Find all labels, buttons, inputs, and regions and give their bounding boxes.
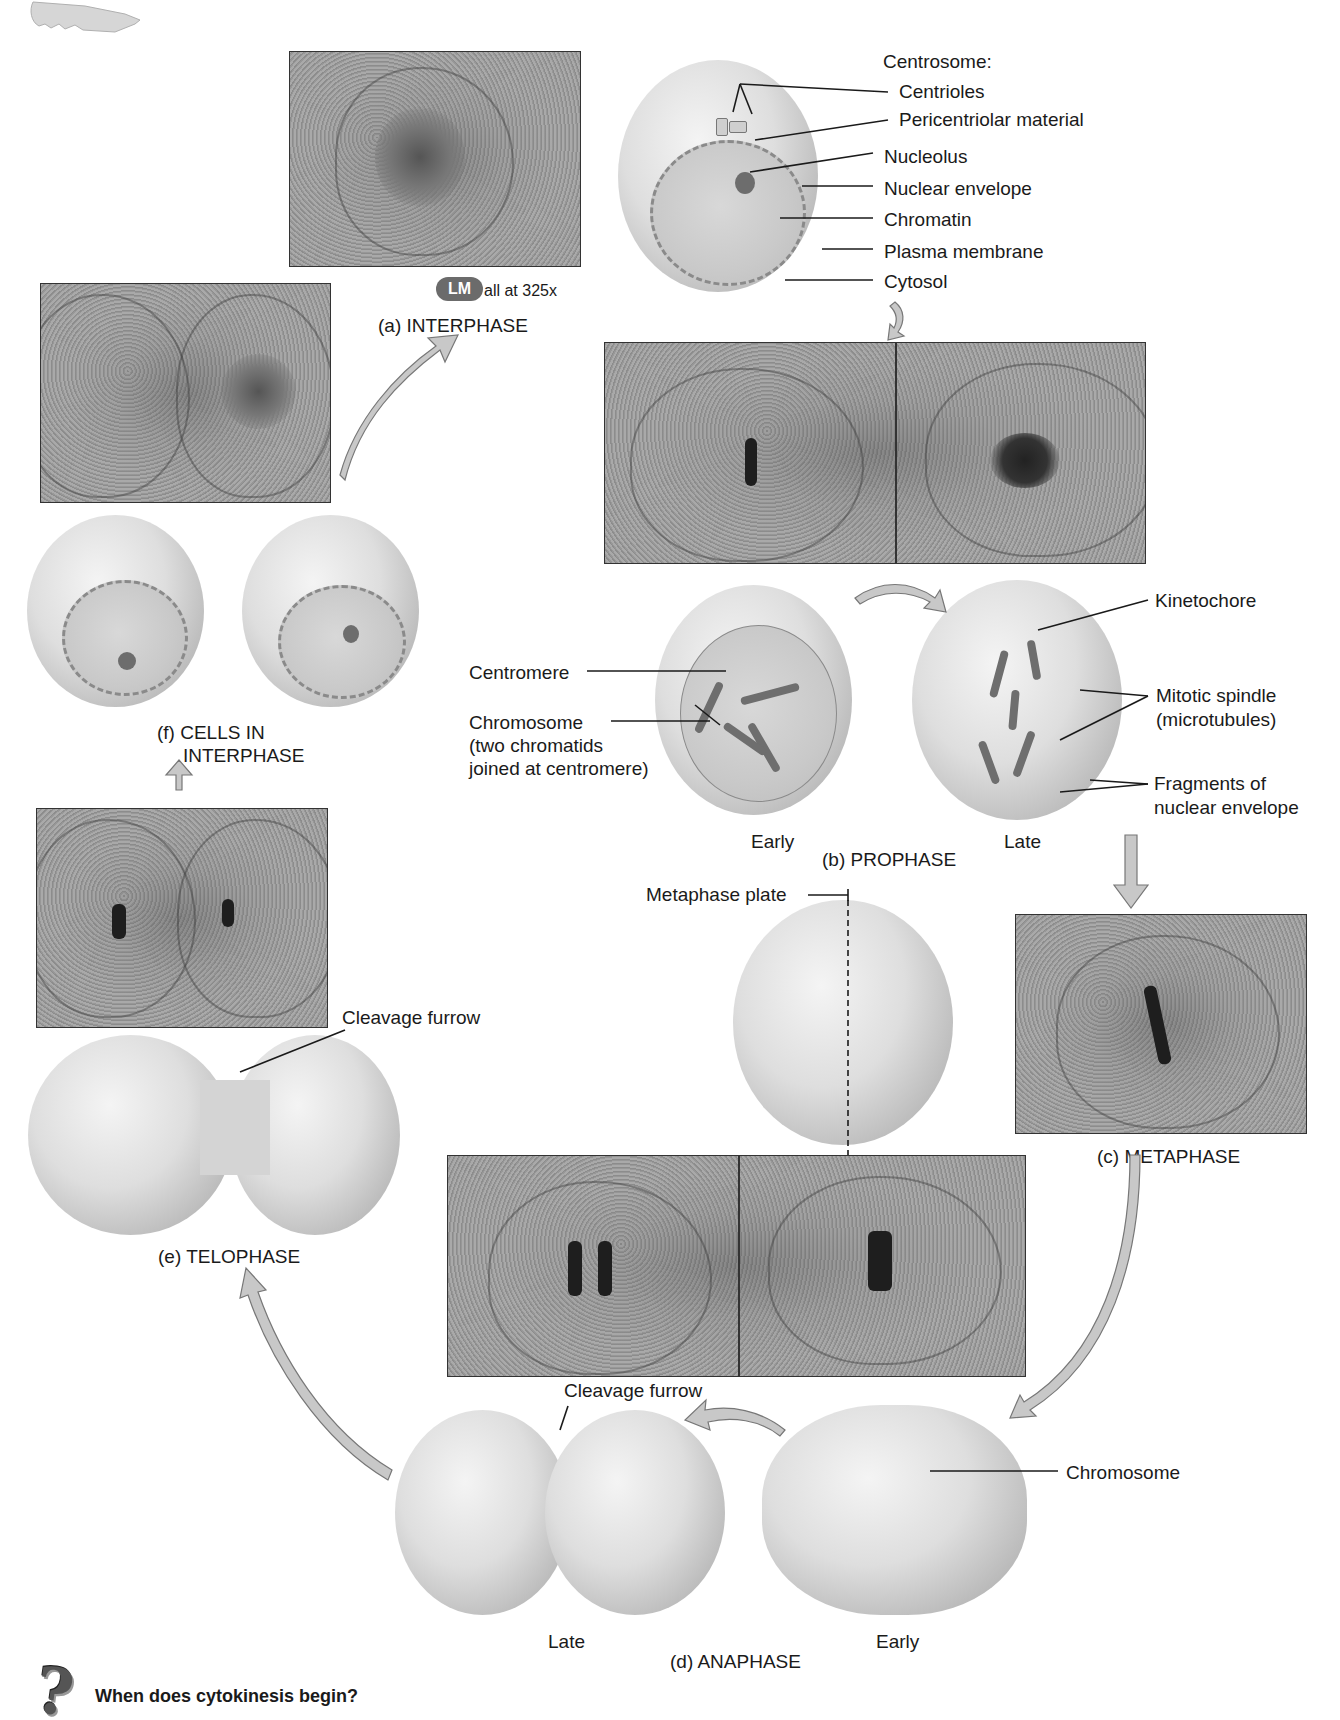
early-prophase-label: Early: [751, 831, 794, 853]
question-mark-icon: ?: [32, 1658, 78, 1720]
centriole: [729, 121, 747, 133]
label-microtubules: (microtubules): [1156, 709, 1276, 731]
cells-in-interphase-micrograph: [40, 283, 331, 503]
metaphase-phase-label: (c) METAPHASE: [1097, 1145, 1240, 1168]
magnification-text: all at 325x: [484, 280, 557, 302]
label-nuclear-envelope: Nuclear envelope: [884, 178, 1032, 200]
label-chromosome: Chromosome: [469, 712, 583, 734]
label-nucleolus: Nucleolus: [884, 146, 967, 168]
magnification-badge: LM: [436, 277, 483, 301]
daughter-nucleus-left: [62, 580, 188, 696]
telophase-bridge: [200, 1080, 270, 1175]
review-question: When does cytokinesis begin?: [95, 1685, 358, 1707]
telophase-phase-label: (e) TELOPHASE: [158, 1245, 300, 1268]
label-centromere: Centromere: [469, 662, 569, 684]
telophase-micrograph: [36, 808, 328, 1028]
label-pericentriolar-material: Pericentriolar material: [899, 109, 1084, 131]
metaphase-cell: [733, 900, 953, 1145]
anaphase-cleavage-furrow-label: Cleavage furrow: [564, 1380, 702, 1402]
daughter-nucleolus-left: [118, 652, 136, 670]
telophase-cleavage-furrow-label: Cleavage furrow: [342, 1007, 480, 1029]
anaphase-chromosome-label: Chromosome: [1066, 1462, 1180, 1484]
early-anaphase-cell: [762, 1405, 1027, 1615]
metaphase-micrograph: [1015, 914, 1307, 1134]
label-chromatin: Chromatin: [884, 209, 972, 231]
late-anaphase-cell-right-lobe: [545, 1410, 725, 1615]
cells-in-interphase-label-line1: (f) CELLS IN: [157, 721, 265, 744]
label-metaphase-plate: Metaphase plate: [646, 884, 787, 906]
anaphase-micrographs: [447, 1155, 1026, 1377]
cells-in-interphase-label-line2: INTERPHASE: [183, 744, 304, 767]
interphase-phase-label: (a) INTERPHASE: [378, 314, 528, 337]
prophase-micrographs: [604, 342, 1146, 564]
label-cytosol: Cytosol: [884, 271, 947, 293]
interphase-nucleolus: [735, 172, 755, 194]
centriole: [716, 118, 728, 136]
prophase-phase-label: (b) PROPHASE: [822, 848, 956, 871]
interphase-micrograph: [289, 51, 581, 267]
label-nuclear-envelope-fragments: nuclear envelope: [1154, 797, 1299, 819]
key-icon: [25, 0, 155, 40]
early-anaphase-label: Early: [876, 1631, 919, 1653]
label-kinetochore: Kinetochore: [1155, 590, 1256, 612]
daughter-nucleus-right: [278, 585, 406, 699]
late-anaphase-label: Late: [548, 1631, 585, 1653]
label-chromosome-desc-1: (two chromatids: [469, 735, 603, 757]
late-prophase-label: Late: [1004, 831, 1041, 853]
anaphase-phase-label: (d) ANAPHASE: [670, 1650, 801, 1673]
interphase-nucleus: [650, 140, 806, 286]
label-chromosome-desc-2: joined at centromere): [469, 758, 649, 780]
daughter-nucleolus-right: [343, 625, 359, 643]
label-fragments: Fragments of: [1154, 773, 1266, 795]
label-centrioles: Centrioles: [899, 81, 985, 103]
centrosome-heading: Centrosome:: [883, 51, 992, 73]
late-anaphase-cell-left-lobe: [395, 1410, 570, 1615]
label-mitotic-spindle: Mitotic spindle: [1156, 685, 1276, 707]
label-plasma-membrane: Plasma membrane: [884, 241, 1043, 263]
